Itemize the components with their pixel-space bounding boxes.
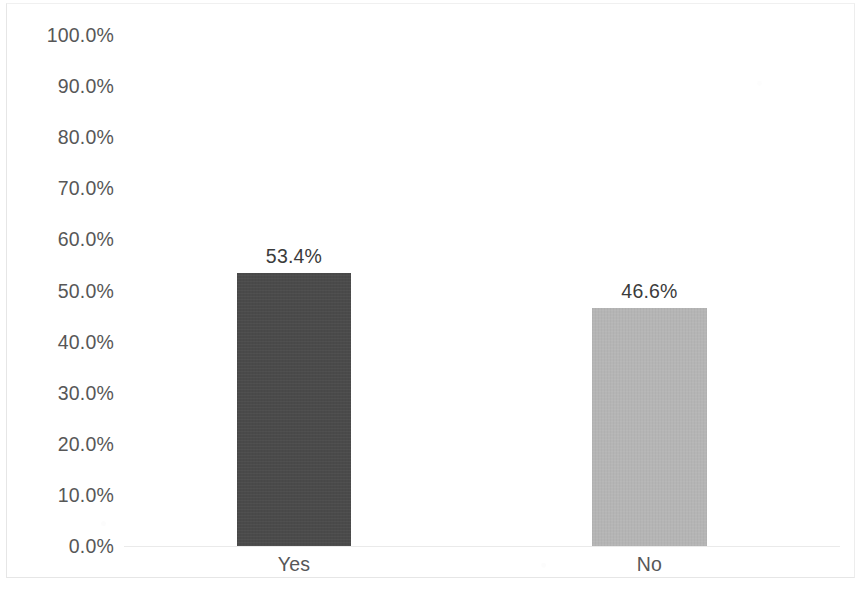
y-axis-tick-label: 40.0% [8,330,114,353]
y-axis-tick-label: 0.0% [8,535,114,558]
y-axis-tick-label: 10.0% [8,483,114,506]
x-axis-category-yes: Yes [278,553,310,576]
y-axis-tick-label: 90.0% [8,75,114,98]
y-axis-tick-label: 100.0% [8,24,114,47]
y-axis-tick-label: 80.0% [8,126,114,149]
y-axis-tick-label: 70.0% [8,177,114,200]
bar-yes: 53.4% [237,273,351,546]
bar-rect-no [592,308,707,546]
bar-no: 46.6% [592,308,707,546]
y-axis-tick-label: 20.0% [8,432,114,455]
x-axis-baseline [124,546,840,547]
bar-rect-yes [237,273,351,546]
bar-value-label: 53.4% [266,245,322,268]
bar-chart: 100.0% 90.0% 80.0% 70.0% 60.0% 50.0% 40.… [0,0,863,595]
y-axis-tick-label: 60.0% [8,228,114,251]
plot-area: 100.0% 90.0% 80.0% 70.0% 60.0% 50.0% 40.… [0,0,863,595]
y-axis-tick-label: 50.0% [8,279,114,302]
bar-value-label: 46.6% [621,280,677,303]
y-axis-tick-label: 30.0% [8,381,114,404]
x-axis-category-no: No [637,553,662,576]
